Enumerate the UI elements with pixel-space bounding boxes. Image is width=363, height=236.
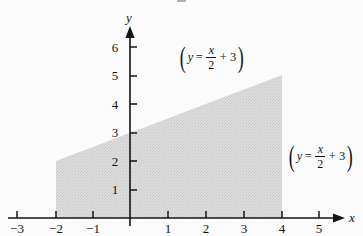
equation-addend: + 3 [220, 51, 236, 64]
close-paren: ) [347, 145, 353, 168]
x-tick-label-1: 1 [158, 222, 178, 235]
plot-canvas [0, 0, 363, 236]
shaded-region [56, 75, 282, 218]
fraction-denominator: 2 [315, 158, 325, 170]
y-tick-label-3: 3 [108, 126, 122, 139]
equation-label-right: ( y = x 2 + 3 ) [287, 143, 355, 170]
y-tick-label-6: 6 [108, 41, 122, 54]
x-tick-label-4: 4 [272, 222, 292, 235]
y-tick-label-2: 2 [108, 155, 122, 168]
fraction-x-over-2: x 2 [315, 143, 325, 170]
equation-body: y = x 2 + 3 [296, 143, 347, 170]
equation-label-upper: ( y = x 2 + 3 ) [178, 44, 246, 71]
open-paren: ( [289, 145, 295, 168]
y-tick-label-5: 5 [108, 69, 122, 82]
x-tick-label-5: 5 [309, 222, 329, 235]
y-axis-arrowhead [125, 26, 134, 38]
x-axis-arrowhead [333, 213, 345, 222]
equation-body: y = x 2 + 3 [187, 44, 238, 71]
fraction-x-over-2: x 2 [206, 44, 216, 71]
equation-addend: + 3 [329, 150, 345, 163]
equation-relation: = [196, 51, 203, 64]
equation-lhs: y [188, 51, 194, 64]
fraction-numerator: x [207, 44, 216, 56]
fraction-denominator: 2 [206, 59, 216, 71]
y-axis-label: y [126, 11, 132, 24]
equation-relation: = [305, 150, 312, 163]
y-tick-label-4: 4 [108, 98, 122, 111]
x-tick-label--2: −2 [44, 222, 68, 235]
x-tick-label-3: 3 [234, 222, 254, 235]
x-tick-label-2: 2 [196, 222, 216, 235]
equation-lhs: y [297, 150, 303, 163]
close-paren: ) [238, 46, 244, 69]
x-tick-label--1: −1 [81, 222, 105, 235]
fraction-numerator: x [316, 143, 325, 155]
y-tick-label-1: 1 [108, 183, 122, 196]
math-figure-shaded-region: −3 −2 −1 1 2 3 4 5 1 2 3 4 5 6 y x ( y =… [0, 0, 363, 236]
open-paren: ( [180, 46, 186, 69]
x-axis-label: x [349, 211, 355, 224]
x-tick-label--3: −3 [5, 222, 29, 235]
